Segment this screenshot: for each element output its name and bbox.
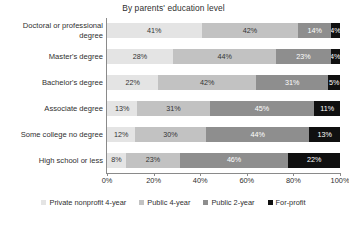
bar-segment-label: 22% bbox=[307, 156, 321, 163]
bar-segment: 13% bbox=[107, 101, 137, 116]
x-tick-label: 0% bbox=[102, 176, 113, 185]
bar-segment-label: 31% bbox=[166, 105, 180, 112]
bar-segment: 30% bbox=[135, 127, 206, 142]
bar-segment: 11% bbox=[314, 101, 340, 116]
x-tick-label: 100% bbox=[331, 176, 349, 185]
bar-segment-label: 30% bbox=[163, 131, 177, 138]
x-axis-ticks: 0%20%40%60%80%100% bbox=[107, 173, 340, 185]
bar-segment-label: 13% bbox=[317, 131, 331, 138]
bar-segment: 4% bbox=[331, 49, 340, 64]
category-label: High school or less bbox=[0, 156, 103, 165]
legend-label: Private nonprofit 4-year bbox=[49, 198, 126, 207]
legend-swatch-icon bbox=[139, 200, 144, 205]
legend-swatch-icon bbox=[203, 200, 208, 205]
bar-segment-label: 44% bbox=[217, 53, 231, 60]
bar-segment-label: 4% bbox=[331, 53, 340, 60]
bar-segment-label: 8% bbox=[111, 156, 121, 163]
bar-segment-label: 45% bbox=[255, 105, 269, 112]
bar-segment: 42% bbox=[158, 75, 256, 90]
legend-item[interactable]: Public 4-year bbox=[139, 198, 190, 207]
bar-segment-label: 42% bbox=[200, 79, 214, 86]
bar-segment: 5% bbox=[328, 75, 340, 90]
bar-segment: 12% bbox=[107, 127, 135, 142]
legend-item[interactable]: Public 2-year bbox=[203, 198, 254, 207]
bar-segment: 4% bbox=[331, 23, 340, 38]
bar-segment: 13% bbox=[309, 127, 340, 142]
legend-swatch-icon bbox=[41, 200, 46, 205]
legend-item[interactable]: Private nonprofit 4-year bbox=[41, 198, 126, 207]
bar-segment-label: 12% bbox=[114, 131, 128, 138]
category-label: Some college no degree bbox=[0, 130, 103, 139]
x-tick-label: 60% bbox=[239, 176, 254, 185]
bar-row: 41%42%14%4% bbox=[107, 23, 340, 38]
bar-row: 28%44%23%4% bbox=[107, 49, 340, 64]
bar-segment: 28% bbox=[107, 49, 173, 64]
legend-label: For-profit bbox=[276, 198, 306, 207]
bar-segment: 31% bbox=[137, 101, 209, 116]
legend-item[interactable]: For-profit bbox=[268, 198, 306, 207]
bar-segment-label: 31% bbox=[285, 79, 299, 86]
bar-segment: 44% bbox=[173, 49, 277, 64]
x-tick-label: 20% bbox=[146, 176, 161, 185]
bar-segment-label: 14% bbox=[307, 27, 321, 34]
bar-segment: 23% bbox=[276, 49, 330, 64]
bar-segment-label: 42% bbox=[243, 27, 257, 34]
bar-segment-label: 44% bbox=[250, 131, 264, 138]
bar-segment-label: 23% bbox=[296, 53, 310, 60]
category-label: Master's degree bbox=[0, 52, 103, 61]
x-tick-label: 40% bbox=[193, 176, 208, 185]
bar-segment: 41% bbox=[107, 23, 202, 38]
category-axis-labels: Doctoral or professional degreeMaster's … bbox=[0, 18, 103, 173]
bar-segment-label: 22% bbox=[125, 79, 139, 86]
bar-row: 13%31%45%11% bbox=[107, 101, 340, 116]
bar-segment-label: 41% bbox=[147, 27, 161, 34]
category-label: Bachelor's degree bbox=[0, 78, 103, 87]
bar-segment: 44% bbox=[206, 127, 310, 142]
bar-segment: 22% bbox=[107, 75, 158, 90]
bar-segment-label: 4% bbox=[331, 27, 340, 34]
bar-segment: 14% bbox=[298, 23, 330, 38]
bar-segment-label: 5% bbox=[329, 79, 339, 86]
legend-label: Public 4-year bbox=[147, 198, 190, 207]
bar-row: 8%23%46%22% bbox=[107, 153, 340, 168]
bar-segment: 23% bbox=[126, 153, 180, 168]
category-label: Doctoral or professional degree bbox=[0, 21, 103, 40]
bar-segment-label: 23% bbox=[146, 156, 160, 163]
bar-segment-label: 13% bbox=[115, 105, 129, 112]
legend-swatch-icon bbox=[268, 200, 273, 205]
bar-segment: 8% bbox=[107, 153, 126, 168]
bar-segment: 42% bbox=[202, 23, 299, 38]
chart-title: By parents' education level bbox=[0, 3, 347, 13]
legend-label: Public 2-year bbox=[211, 198, 254, 207]
x-tick-label: 80% bbox=[286, 176, 301, 185]
chart-legend: Private nonprofit 4-yearPublic 4-yearPub… bbox=[0, 198, 347, 207]
bar-segment-label: 46% bbox=[227, 156, 241, 163]
bar-rows: 41%42%14%4%28%44%23%4%22%42%31%5%13%31%4… bbox=[107, 18, 340, 173]
plot-area: 41%42%14%4%28%44%23%4%22%42%31%5%13%31%4… bbox=[107, 18, 340, 173]
bar-segment-label: 11% bbox=[320, 105, 334, 112]
bar-segment: 46% bbox=[180, 153, 288, 168]
bar-segment: 22% bbox=[288, 153, 340, 168]
bar-segment: 31% bbox=[256, 75, 328, 90]
bar-segment-label: 28% bbox=[133, 53, 147, 60]
bar-row: 12%30%44%13% bbox=[107, 127, 340, 142]
category-label: Associate degree bbox=[0, 104, 103, 113]
bar-row: 22%42%31%5% bbox=[107, 75, 340, 90]
bar-segment: 45% bbox=[210, 101, 315, 116]
